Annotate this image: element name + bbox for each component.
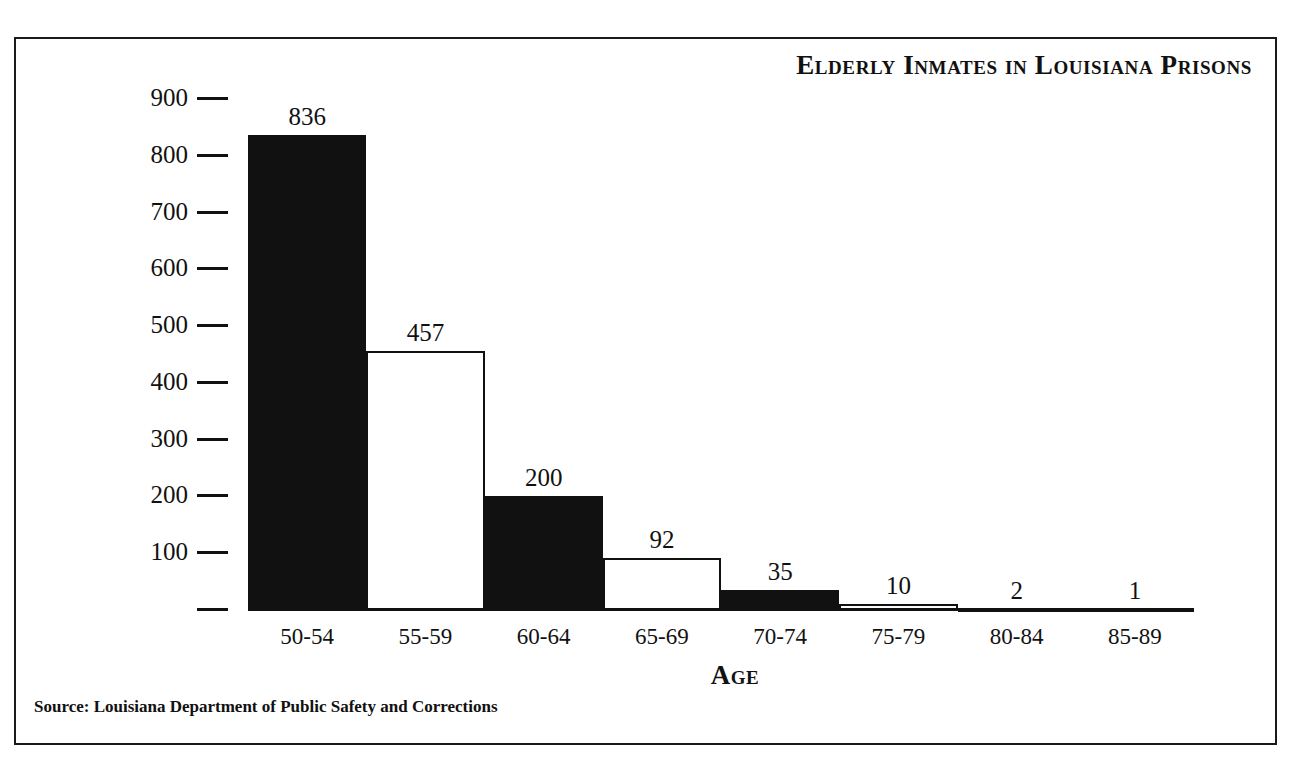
bar-value-label: 92 bbox=[603, 526, 721, 554]
bar-value-label: 35 bbox=[721, 558, 839, 586]
bar bbox=[366, 351, 484, 610]
bar bbox=[603, 558, 721, 610]
x-axis-category-label: 60-64 bbox=[485, 622, 603, 652]
bar bbox=[248, 135, 366, 610]
bar-value-label: 457 bbox=[366, 319, 484, 347]
y-axis-tick-label: 100 bbox=[118, 537, 188, 567]
bar bbox=[721, 590, 839, 610]
y-axis-tick-mark bbox=[197, 381, 228, 384]
y-axis-tick-label: 200 bbox=[118, 480, 188, 510]
y-axis-tick-label: 800 bbox=[118, 140, 188, 170]
y-axis-tick-label: 500 bbox=[118, 310, 188, 340]
y-axis-tick-mark bbox=[197, 438, 228, 441]
y-axis-tick-mark bbox=[197, 324, 228, 327]
chart-figure: Elderly Inmates in Louisiana Prisons 100… bbox=[0, 0, 1290, 770]
bar-value-label: 200 bbox=[485, 464, 603, 492]
x-axis-title: Age bbox=[90, 660, 1290, 691]
x-axis-category-label: 70-74 bbox=[721, 622, 839, 652]
bar-value-label: 1 bbox=[1076, 577, 1194, 605]
y-axis-tick-mark bbox=[197, 494, 228, 497]
x-axis-category-label: 50-54 bbox=[248, 622, 366, 652]
x-axis-category-label: 55-59 bbox=[366, 622, 484, 652]
y-axis-tick-label: 700 bbox=[118, 197, 188, 227]
y-axis-tick-mark bbox=[197, 211, 228, 214]
bar-value-label: 2 bbox=[958, 577, 1076, 605]
x-axis-category-label: 80-84 bbox=[958, 622, 1076, 652]
plot-area: 100200300400500600700800900 836457200923… bbox=[0, 0, 1290, 770]
y-axis-tick-mark bbox=[197, 97, 228, 100]
y-axis-tick-mark bbox=[197, 154, 228, 157]
x-axis-category-label: 85-89 bbox=[1076, 622, 1194, 652]
source-note: Source: Louisiana Department of Public S… bbox=[34, 697, 498, 717]
y-axis-tick-label: 400 bbox=[118, 367, 188, 397]
y-axis-tick-mark bbox=[197, 267, 228, 270]
y-axis-tick-label: 900 bbox=[118, 83, 188, 113]
y-axis-tick-mark bbox=[197, 608, 228, 611]
bar bbox=[485, 496, 603, 610]
x-axis-category-label: 65-69 bbox=[603, 622, 721, 652]
y-axis-tick-label: 600 bbox=[118, 253, 188, 283]
bar-value-label: 836 bbox=[248, 103, 366, 131]
x-axis-category-label: 75-79 bbox=[839, 622, 957, 652]
x-axis-line bbox=[248, 609, 1194, 611]
bar-value-label: 10 bbox=[839, 572, 957, 600]
y-axis-tick-label: 300 bbox=[118, 424, 188, 454]
y-axis-tick-mark bbox=[197, 551, 228, 554]
